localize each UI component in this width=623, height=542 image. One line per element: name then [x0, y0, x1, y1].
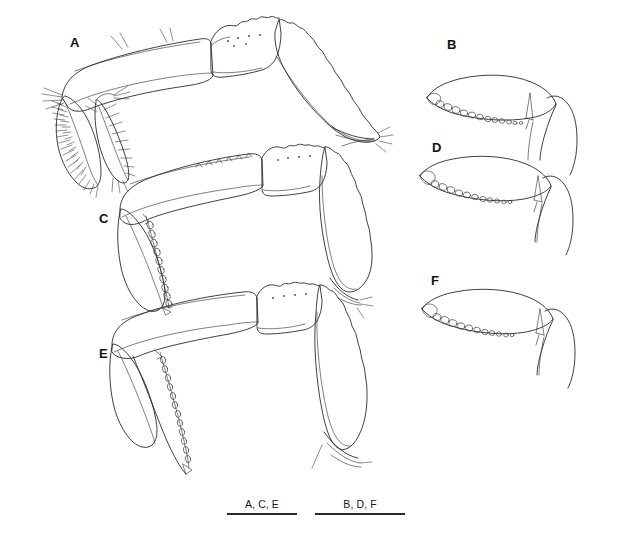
scalebar-left-caption: A, C, E — [227, 498, 297, 510]
scalebar-right: B, D, F — [315, 498, 405, 515]
panel-label-d: D — [432, 141, 442, 154]
scalebar-right-line — [315, 513, 405, 515]
denticle-chain-e — [160, 356, 192, 463]
panel-f-drawing — [422, 289, 575, 388]
denticle-row-f — [432, 313, 514, 337]
scalebar-left: A, C, E — [227, 498, 297, 515]
panel-label-c: C — [99, 212, 109, 225]
panel-label-f: F — [431, 274, 439, 287]
denticle-row-b — [435, 100, 522, 125]
panel-d-drawing — [420, 156, 573, 255]
panel-label-b: B — [447, 38, 457, 51]
scalebar-left-line — [227, 513, 297, 515]
panel-label-a: A — [70, 36, 80, 49]
figure-illustration — [0, 0, 623, 542]
panel-label-e: E — [99, 347, 108, 360]
figure-plate: A B C D E F A, C, E B, D, F — [0, 0, 623, 542]
denticle-row-d — [430, 180, 512, 204]
scalebar-right-caption: B, D, F — [315, 498, 405, 510]
panel-a-drawing — [42, 16, 393, 197]
panel-e-drawing — [110, 282, 372, 474]
